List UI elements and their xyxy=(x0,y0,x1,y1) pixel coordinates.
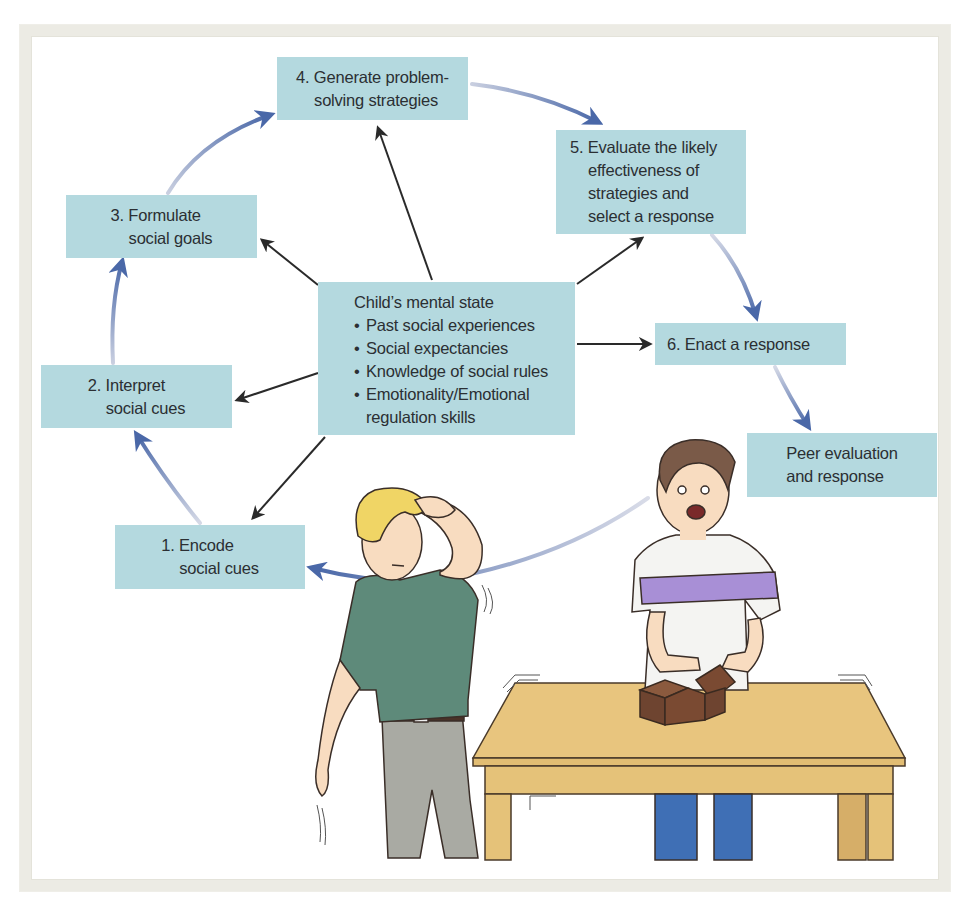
arrow-1-to-2 xyxy=(137,435,200,523)
step-6-line-1: 6. Enact a response xyxy=(667,333,846,356)
mental-state-bullet-continuation: regulation skills xyxy=(354,406,575,429)
mental-state-bullet: Knowledge of social rules xyxy=(354,360,575,383)
arrow-mental-to-3 xyxy=(262,240,318,285)
step-4-box: 4. Generate problem- solving strategies xyxy=(277,57,468,120)
step-1-box: 1. Encode social cues xyxy=(115,525,305,589)
mental-state-bullet: Emotionality/Emotional xyxy=(354,383,575,406)
arrow-3-to-4 xyxy=(168,115,270,193)
arrow-mental-to-1 xyxy=(253,437,325,518)
step-3-line-2: social goals xyxy=(111,227,213,250)
mental-state-bullet: Past social experiences xyxy=(354,314,575,337)
boy-dark-hair-illustration xyxy=(632,440,780,860)
step-6-box: 6. Enact a response xyxy=(655,323,846,365)
step-3-line-1: 3. Formulate xyxy=(111,204,213,227)
mental-state-bullet: Social expectancies xyxy=(354,337,575,360)
step-1-line-1: 1. Encode xyxy=(161,534,258,557)
step-2-box: 2. Interpret social cues xyxy=(41,365,232,428)
step-5-line-2: effectiveness of xyxy=(570,159,746,182)
mental-state-title: Child’s mental state xyxy=(354,291,575,314)
arrow-5-to-6 xyxy=(712,235,756,316)
peer-line-1: Peer evaluation xyxy=(786,442,898,465)
step-5-box: 5. Evaluate the likely effectiveness of … xyxy=(556,130,746,234)
step-3-box: 3. Formulate social goals xyxy=(66,195,257,258)
step-5-line-3: strategies and xyxy=(570,182,746,205)
arrow-4-to-5 xyxy=(472,84,598,122)
arrow-mental-to-4 xyxy=(378,128,432,280)
step-4-line-2: solving strategies xyxy=(296,89,449,112)
step-2-line-2: social cues xyxy=(88,397,185,420)
step-1-line-2: social cues xyxy=(161,557,258,580)
arrow-2-to-3 xyxy=(112,262,122,363)
mental-state-box: Child’s mental state Past social experie… xyxy=(318,282,575,435)
arrow-6-to-peer xyxy=(775,367,808,426)
boy-blond-illustration xyxy=(316,488,482,858)
arrow-mental-to-2 xyxy=(237,373,318,400)
arrow-mental-to-5 xyxy=(577,238,642,284)
peer-evaluation-box: Peer evaluation and response xyxy=(747,433,937,497)
peer-line-2: and response xyxy=(786,465,898,488)
step-2-line-1: 2. Interpret xyxy=(88,374,185,397)
step-5-line-4: select a response xyxy=(570,205,746,228)
step-4-line-1: 4. Generate problem- xyxy=(296,66,449,89)
step-5-line-1: 5. Evaluate the likely xyxy=(570,136,746,159)
